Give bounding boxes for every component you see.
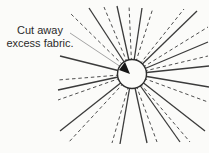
cut-away-label-line2: excess fabric. [0,37,80,50]
center-circle [118,60,147,89]
cut-away-label: Cut away excess fabric. [0,24,80,49]
diagram-canvas [0,0,209,153]
fabric-cutting-diagram: Cut away excess fabric. [0,0,209,153]
cut-away-label-line1: Cut away [0,24,80,37]
